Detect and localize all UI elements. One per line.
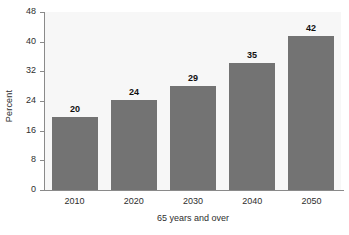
bar-value-label: 42 [288, 23, 334, 33]
bar-group[interactable]: 24 [111, 0, 157, 190]
bar-group[interactable]: 20 [52, 0, 98, 190]
y-axis-tick-mark [40, 160, 45, 161]
y-axis-tick-label: 16 [26, 125, 36, 135]
y-axis-tick-mark [40, 190, 45, 191]
x-axis-tick-label: 2020 [104, 196, 164, 206]
bar-value-label: 35 [229, 50, 275, 60]
bar-chart-figure: Percent 081624324048 2024293542 20102020… [0, 0, 349, 235]
bar-group[interactable]: 42 [288, 0, 334, 190]
y-axis-title: Percent [2, 66, 16, 146]
y-axis-tick-label: 48 [26, 6, 36, 16]
bar[interactable] [52, 117, 98, 190]
bar-group[interactable]: 29 [170, 0, 216, 190]
y-axis-tick-mark [40, 101, 45, 102]
y-axis-tick-label: 24 [26, 95, 36, 105]
bar[interactable] [170, 86, 216, 190]
y-axis-tick-label: 32 [26, 65, 36, 75]
x-axis-tick-label: 2030 [163, 196, 223, 206]
x-axis-tick-label: 2050 [281, 196, 341, 206]
y-axis-title-label: Percent [4, 90, 14, 122]
bar-value-label: 20 [52, 104, 98, 114]
x-axis-tick-label: 2040 [222, 196, 282, 206]
y-axis-tick-mark [40, 71, 45, 72]
bar-group[interactable]: 35 [229, 0, 275, 190]
y-axis-tick-mark [40, 42, 45, 43]
bar[interactable] [288, 36, 334, 190]
y-axis-tick-mark [40, 12, 45, 13]
x-axis-line [40, 190, 344, 191]
y-axis-tick-label: 0 [31, 184, 36, 194]
y-axis-tick-label: 8 [31, 154, 36, 164]
bar[interactable] [111, 100, 157, 190]
x-axis-tick-label: 2010 [45, 196, 105, 206]
y-axis-tick-mark [40, 131, 45, 132]
y-axis-tick-label: 40 [26, 36, 36, 46]
bar[interactable] [229, 63, 275, 190]
bar-value-label: 29 [170, 73, 216, 83]
x-axis-title: 65 years and over [45, 213, 341, 223]
bar-value-label: 24 [111, 87, 157, 97]
